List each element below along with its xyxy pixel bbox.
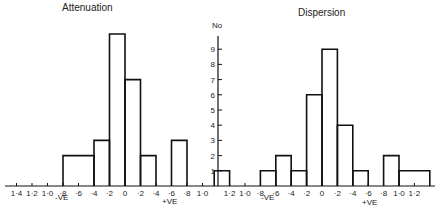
histogram-bar [353, 171, 368, 186]
histogram-bar [322, 49, 337, 186]
attenuation-negative-label: -VE [55, 193, 68, 202]
histogram-bar [337, 125, 352, 186]
x-tick-label: 0 [123, 189, 128, 198]
histogram-bar [307, 95, 322, 186]
histogram-bar [141, 156, 157, 186]
x-tick-label: ·2 [334, 189, 342, 198]
x-tick-label: 0 [320, 189, 325, 198]
dispersion-title: Dispersion [298, 7, 345, 18]
x-tick-label: ·2 [137, 189, 145, 198]
x-tick-label: 1·2 [409, 189, 421, 198]
y-tick-label: 1 [211, 167, 216, 176]
x-tick-label: ·6 [365, 189, 373, 198]
histogram-bar [214, 171, 229, 186]
dispersion-negative-label: -VE [261, 193, 274, 202]
y-tick-label: 9 [211, 45, 216, 54]
x-tick-label: 1·0 [42, 189, 54, 198]
x-tick-label: ·4 [288, 189, 296, 198]
attenuation-histogram: 1·41·21·0·8·6·4·20·2·4·6·81·0 [5, 34, 218, 198]
y-axis: 123456789 [211, 36, 222, 186]
histogram-bar [172, 140, 188, 186]
histogram-bar [110, 34, 126, 186]
y-tick-label: 2 [211, 152, 216, 161]
histogram-bar [94, 140, 110, 186]
attenuation-positive-label: +VE [162, 197, 177, 206]
y-tick-label: 4 [211, 121, 216, 130]
histogram-figure: 1·41·21·0·8·6·4·20·2·4·6·81·0 1·21·0·8·6… [0, 0, 443, 218]
x-tick-label: ·4 [152, 189, 160, 198]
histogram-bar [260, 171, 275, 186]
x-tick-label: 1·4 [11, 189, 23, 198]
y-tick-label: 5 [211, 106, 216, 115]
x-tick-label: 1·0 [197, 189, 209, 198]
y-axis-label: No [212, 21, 223, 30]
x-tick-label: ·4 [90, 189, 98, 198]
x-tick-label: 1·2 [26, 189, 38, 198]
histogram-bar [384, 156, 399, 186]
x-tick-label: ·8 [183, 189, 191, 198]
histogram-bar [291, 171, 306, 186]
dispersion-positive-label: +VE [362, 198, 377, 207]
histogram-bar [125, 80, 141, 186]
x-tick-label: 1·2 [224, 189, 236, 198]
x-tick-label: ·6 [75, 189, 83, 198]
x-tick-label: ·2 [303, 189, 311, 198]
x-tick-label: ·4 [349, 189, 357, 198]
y-tick-label: 8 [211, 60, 216, 69]
histogram-bar [276, 156, 291, 186]
x-tick-label: ·2 [106, 189, 114, 198]
x-tick-label: 1·0 [239, 189, 251, 198]
dispersion-histogram: 1·21·0·8·6·4·20·2·4·6·81·01·2 [214, 49, 435, 198]
attenuation-title: Attenuation [62, 2, 113, 13]
y-tick-label: 6 [211, 91, 216, 100]
y-tick-label: 7 [211, 76, 216, 85]
x-tick-label: 1·0 [393, 189, 405, 198]
y-tick-label: 3 [211, 136, 216, 145]
x-tick-label: ·8 [380, 189, 388, 198]
histogram-bar [63, 156, 94, 186]
